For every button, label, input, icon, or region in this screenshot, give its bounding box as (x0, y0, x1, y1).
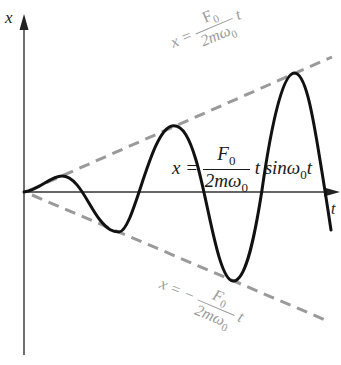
x-axis-arrow-icon (20, 14, 29, 30)
main-eq-fraction: F0 2mω0 (203, 143, 250, 196)
main-eq-tail: t sinω0t (255, 157, 312, 178)
x-axis-label: x (5, 8, 13, 28)
t-axis-label: t (331, 200, 335, 218)
main-eq-lhs: x = (172, 157, 198, 178)
main-equation: x = F0 2mω0 t sinω0t (172, 143, 312, 196)
